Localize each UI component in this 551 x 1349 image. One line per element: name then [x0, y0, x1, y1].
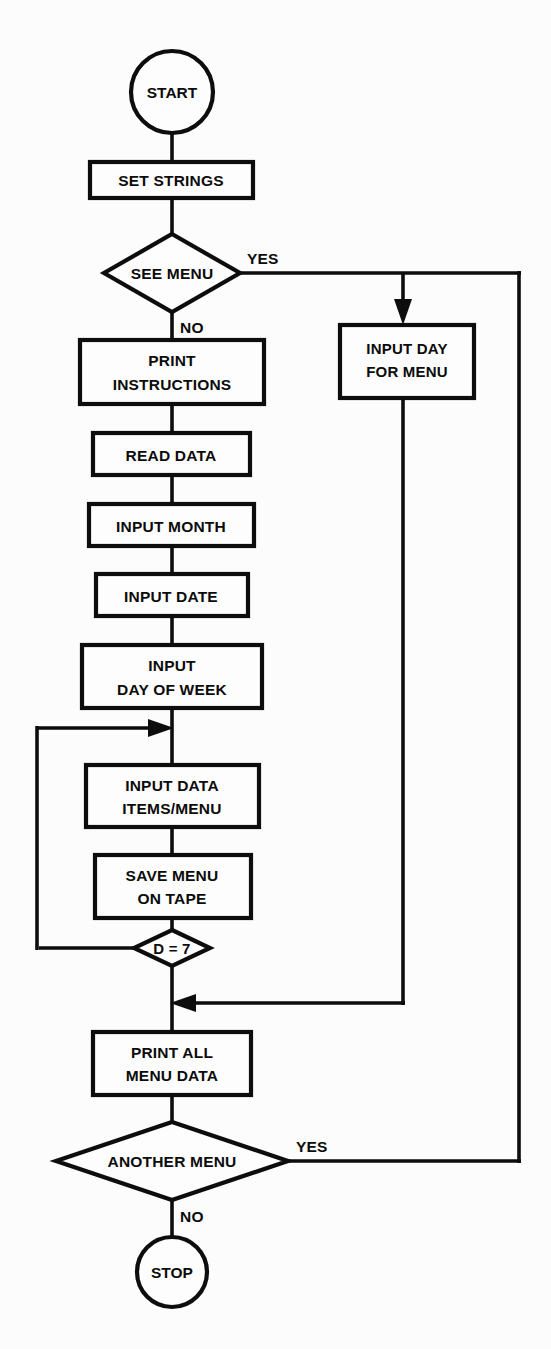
node-see-menu[interactable]: SEE MENU [104, 234, 240, 312]
start-label: START [147, 84, 198, 101]
set-strings-label: SET STRINGS [118, 172, 224, 189]
node-print-instructions[interactable]: PRINT INSTRUCTIONS [80, 340, 264, 404]
input-date-label: INPUT DATE [124, 588, 218, 605]
node-input-day-of-week[interactable]: INPUT DAY OF WEEK [82, 645, 262, 708]
input-data-items-shape [86, 765, 259, 827]
input-day-for-menu-line1: INPUT DAY [366, 340, 447, 357]
flowchart-canvas: START SET STRINGS SEE MENU YES NO INPUT … [0, 0, 551, 1349]
read-data-label: READ DATA [126, 447, 217, 464]
node-d-equals-7[interactable]: D = 7 [134, 930, 210, 966]
d-equals-7-label: D = 7 [153, 940, 190, 957]
print-instructions-line2: INSTRUCTIONS [113, 376, 232, 393]
another-menu-no-label: NO [180, 1208, 204, 1225]
input-day-of-week-line1: INPUT [148, 657, 196, 674]
node-input-month[interactable]: INPUT MONTH [89, 504, 254, 546]
node-set-strings[interactable]: SET STRINGS [90, 162, 253, 198]
see-menu-yes-label: YES [247, 250, 279, 267]
input-day-for-menu-line2: FOR MENU [366, 363, 448, 380]
print-instructions-line1: PRINT [148, 352, 196, 369]
print-all-menu-data-line2: MENU DATA [126, 1067, 219, 1084]
save-menu-on-tape-line2: ON TAPE [137, 890, 206, 907]
node-input-date[interactable]: INPUT DATE [96, 574, 248, 616]
print-all-menu-data-line1: PRINT ALL [131, 1044, 213, 1061]
print-instructions-shape [80, 340, 264, 404]
node-print-all-menu-data[interactable]: PRINT ALL MENU DATA [93, 1032, 251, 1095]
input-data-items-line1: INPUT DATA [125, 777, 219, 794]
node-input-data-items[interactable]: INPUT DATA ITEMS/MENU [86, 765, 259, 827]
input-month-label: INPUT MONTH [116, 518, 226, 535]
node-start[interactable]: START [131, 51, 213, 133]
node-input-day-for-menu[interactable]: INPUT DAY FOR MENU [340, 325, 474, 398]
input-day-of-week-line2: DAY OF WEEK [117, 681, 227, 698]
see-menu-no-label: NO [180, 319, 204, 336]
save-menu-on-tape-shape [95, 855, 251, 918]
input-day-of-week-shape [82, 645, 262, 708]
stop-label: STOP [151, 1264, 193, 1281]
flowchart-svg: START SET STRINGS SEE MENU YES NO INPUT … [0, 0, 551, 1349]
arrowhead-into-input-day-for-menu [394, 299, 412, 325]
see-menu-label: SEE MENU [131, 265, 214, 282]
input-day-for-menu-shape [340, 325, 474, 398]
print-all-menu-data-shape [93, 1032, 251, 1095]
save-menu-on-tape-line1: SAVE MENU [126, 867, 219, 884]
arrowhead-merge-into-main-column [170, 994, 196, 1012]
arrowhead-into-input-data-items [148, 719, 174, 737]
node-read-data[interactable]: READ DATA [93, 433, 250, 475]
node-stop[interactable]: STOP [137, 1237, 207, 1307]
input-data-items-line2: ITEMS/MENU [122, 800, 221, 817]
node-save-menu-on-tape[interactable]: SAVE MENU ON TAPE [95, 855, 251, 918]
another-menu-yes-label: YES [296, 1138, 328, 1155]
node-another-menu[interactable]: ANOTHER MENU [56, 1122, 288, 1200]
another-menu-label: ANOTHER MENU [108, 1153, 237, 1170]
